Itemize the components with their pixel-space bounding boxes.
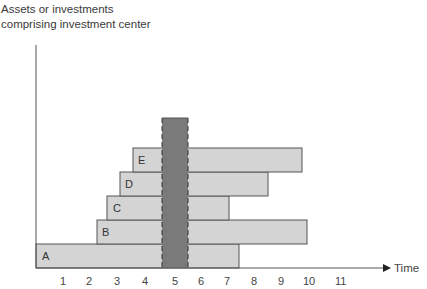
svg-text:1: 1 <box>60 275 66 287</box>
bar-E: E <box>133 148 302 172</box>
highlight-period <box>162 118 188 268</box>
bar-D: D <box>120 172 268 196</box>
bar-A: A <box>36 244 239 268</box>
svg-text:4: 4 <box>142 275 148 287</box>
bar-label-E: E <box>138 154 145 166</box>
svg-text:6: 6 <box>198 275 204 287</box>
svg-text:11: 11 <box>335 275 346 287</box>
svg-text:8: 8 <box>251 275 257 287</box>
bar-B: B <box>97 220 307 244</box>
bar-label-C: C <box>113 202 121 214</box>
svg-text:3: 3 <box>114 275 120 287</box>
x-axis-arrow-icon <box>383 264 391 272</box>
svg-text:9: 9 <box>278 275 284 287</box>
svg-text:7: 7 <box>224 275 230 287</box>
diagram-canvas: A B C D E Time 1 2 3 4 5 6 7 8 9 10 11 <box>0 0 427 289</box>
svg-text:10: 10 <box>303 275 315 287</box>
x-axis-label: Time <box>394 262 419 274</box>
bar-label-B: B <box>102 226 109 238</box>
svg-text:2: 2 <box>86 275 92 287</box>
bar-label-D: D <box>125 178 133 190</box>
x-ticks: 1 2 3 4 5 6 7 8 9 10 11 <box>60 275 346 287</box>
svg-text:5: 5 <box>172 275 178 287</box>
bar-label-A: A <box>42 250 50 262</box>
